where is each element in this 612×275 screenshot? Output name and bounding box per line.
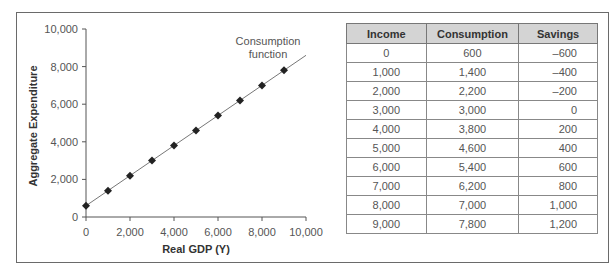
income-cell: 2,000 <box>347 82 427 101</box>
savings-cell: –200 <box>519 82 598 101</box>
y-tick-label: 2,000 <box>50 173 78 185</box>
savings-cell: 1,000 <box>519 196 598 215</box>
diamond-marker-icon <box>126 172 134 180</box>
header-income: Income <box>347 24 427 44</box>
diamond-marker-icon <box>214 111 222 119</box>
consumption-chart: 002,0002,0004,0004,0006,0006,0008,0008,0… <box>0 0 340 275</box>
y-tick-label: 10,000 <box>44 23 78 35</box>
table-header-row: Income Consumption Savings <box>347 24 598 44</box>
income-cell: 1,000 <box>347 63 427 82</box>
income-cell: 8,000 <box>347 196 427 215</box>
diamond-marker-icon <box>192 127 200 135</box>
y-tick-label: 4,000 <box>50 136 78 148</box>
consumption-cell: 600 <box>426 44 519 63</box>
savings-cell: 400 <box>519 139 598 158</box>
diamond-marker-icon <box>104 187 112 195</box>
x-tick-label: 2,000 <box>116 226 144 238</box>
chart-canvas: 002,0002,0004,0004,0006,0006,0008,0008,0… <box>0 0 340 275</box>
consumption-cell: 7,000 <box>426 196 519 215</box>
consumption-cell: 1,400 <box>426 63 519 82</box>
table-row: 6,0005,400600 <box>347 158 598 177</box>
income-consumption-savings-table: Income Consumption Savings 0600–600 1,00… <box>346 23 598 234</box>
y-axis-title: Aggregate Expenditure <box>27 65 39 186</box>
y-tick-label: 0 <box>72 211 78 223</box>
annotation-consumption-function: Consumption <box>236 35 301 47</box>
table-row: 1,0001,400–400 <box>347 63 598 82</box>
diamond-marker-icon <box>236 96 244 104</box>
x-tick-label: 0 <box>83 226 89 238</box>
income-cell: 3,000 <box>347 101 427 120</box>
income-cell: 7,000 <box>347 177 427 196</box>
table-row: 7,0006,200800 <box>347 177 598 196</box>
table-row: 8,0007,0001,000 <box>347 196 598 215</box>
consumption-cell: 4,600 <box>426 139 519 158</box>
savings-cell: 200 <box>519 120 598 139</box>
income-cell: 9,000 <box>347 215 427 234</box>
x-tick-label: 10,000 <box>289 226 323 238</box>
header-savings: Savings <box>519 24 598 44</box>
diamond-marker-icon <box>82 202 90 210</box>
table-row: 2,0002,200–200 <box>347 82 598 101</box>
y-tick-label: 8,000 <box>50 61 78 73</box>
y-tick-label: 6,000 <box>50 98 78 110</box>
consumption-cell: 3,000 <box>426 101 519 120</box>
savings-cell: 0 <box>519 101 598 120</box>
savings-cell: –600 <box>519 44 598 63</box>
consumption-cell: 6,200 <box>426 177 519 196</box>
x-tick-label: 4,000 <box>160 226 188 238</box>
table-row: 3,0003,0000 <box>347 101 598 120</box>
diamond-marker-icon <box>280 66 288 74</box>
income-cell: 4,000 <box>347 120 427 139</box>
table-row: 0600–600 <box>347 44 598 63</box>
consumption-cell: 5,400 <box>426 158 519 177</box>
table-row: 4,0003,800200 <box>347 120 598 139</box>
header-consumption: Consumption <box>426 24 519 44</box>
savings-cell: 800 <box>519 177 598 196</box>
consumption-cell: 3,800 <box>426 120 519 139</box>
diamond-marker-icon <box>258 81 266 89</box>
annotation-consumption-function: function <box>249 48 288 60</box>
table-row: 5,0004,600400 <box>347 139 598 158</box>
x-axis-title: Real GDP (Y) <box>162 243 230 255</box>
income-cell: 0 <box>347 44 427 63</box>
savings-cell: 600 <box>519 158 598 177</box>
consumption-cell: 2,200 <box>426 82 519 101</box>
x-tick-label: 6,000 <box>204 226 232 238</box>
income-cell: 6,000 <box>347 158 427 177</box>
income-cell: 5,000 <box>347 139 427 158</box>
diamond-marker-icon <box>148 157 156 165</box>
savings-cell: –400 <box>519 63 598 82</box>
table-row: 9,0007,8001,200 <box>347 215 598 234</box>
savings-cell: 1,200 <box>519 215 598 234</box>
diamond-marker-icon <box>170 142 178 150</box>
x-tick-label: 8,000 <box>248 226 276 238</box>
consumption-cell: 7,800 <box>426 215 519 234</box>
